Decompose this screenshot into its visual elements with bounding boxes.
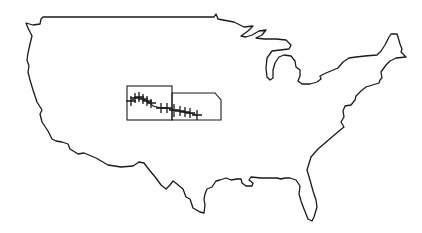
star-cross-icon — [185, 108, 195, 118]
us-outline — [26, 14, 406, 221]
star-cross-icon — [175, 106, 185, 116]
track-markers — [126, 92, 202, 120]
us-map — [0, 0, 422, 233]
star-cross-icon — [192, 110, 202, 120]
map-canvas: Continental United States outline — [0, 0, 422, 233]
star-cross-icon — [180, 107, 190, 117]
star-cross-icon — [162, 103, 172, 113]
